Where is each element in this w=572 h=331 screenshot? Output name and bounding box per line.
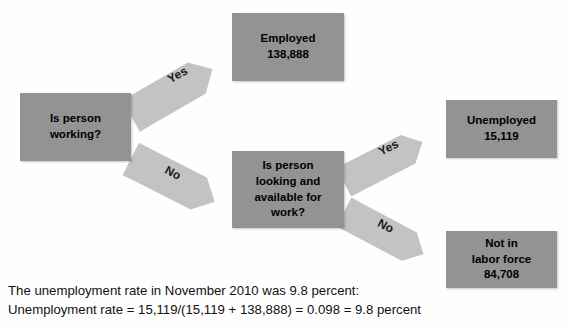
is-person-working-box[interactable]: Is person working? — [20, 93, 131, 161]
employed-label: Employed 138,888 — [261, 31, 316, 63]
is-person-working-label: Is person working? — [50, 111, 101, 143]
arrow-yes-employed: Yes — [131, 46, 246, 126]
caption: The unemployment rate in November 2010 w… — [8, 281, 448, 319]
employed-box[interactable]: Employed 138,888 — [232, 13, 344, 81]
not-in-labor-force-box[interactable]: Not in labor force 84,708 — [446, 231, 557, 288]
caption-line-1: The unemployment rate in November 2010 w… — [8, 281, 448, 300]
not-in-labor-force-label: Not in labor force 84,708 — [472, 236, 531, 284]
arrow-no-looking: No — [131, 141, 246, 221]
caption-line-2: Unemployment rate = 15,119/(15,119 + 138… — [8, 300, 448, 319]
is-person-looking-box[interactable]: Is person looking and available for work… — [232, 151, 344, 228]
is-person-looking-label: Is person looking and available for work… — [254, 158, 321, 221]
unemployed-box[interactable]: Unemployed 15,119 — [446, 100, 557, 158]
flowchart-canvas: Yes No Yes No Is — [0, 0, 572, 331]
arrow-no-nilf: No — [344, 196, 459, 280]
unemployed-label: Unemployed 15,119 — [467, 113, 536, 145]
arrow-yes-unemployed: Yes — [344, 120, 454, 196]
